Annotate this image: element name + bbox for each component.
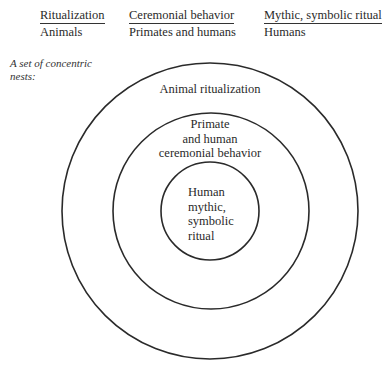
outer-ring-label: Animal ritualization xyxy=(130,82,290,97)
label-line: and human xyxy=(130,132,290,147)
label-line: ceremonial behavior xyxy=(130,146,290,161)
inner-ring-label: Human mythic, symbolic ritual xyxy=(188,185,248,243)
label-line: Primate xyxy=(130,117,290,132)
label-line: symbolic xyxy=(188,214,248,229)
label-line: mythic, xyxy=(188,200,248,215)
label-line: Human xyxy=(188,185,248,200)
label-line: Animal ritualization xyxy=(130,82,290,97)
middle-ring-label: Primate and human ceremonial behavior xyxy=(130,117,290,161)
label-line: ritual xyxy=(188,229,248,244)
